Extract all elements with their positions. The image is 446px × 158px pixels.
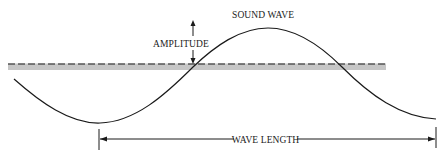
arrow-right-icon <box>428 137 435 142</box>
wave-length-label: WAVE LENGTH <box>232 135 300 145</box>
arrow-left-icon <box>100 137 107 142</box>
diagram-title: SOUND WAVE <box>232 10 294 20</box>
arrow-down-icon <box>191 58 196 64</box>
amplitude-label: AMPLITUDE <box>153 39 209 49</box>
sound-wave-curve <box>14 28 436 123</box>
arrow-up-icon <box>191 20 196 26</box>
sound-wave-diagram: AMPLITUDE SOUND WAVE WAVE LENGTH <box>0 0 446 158</box>
